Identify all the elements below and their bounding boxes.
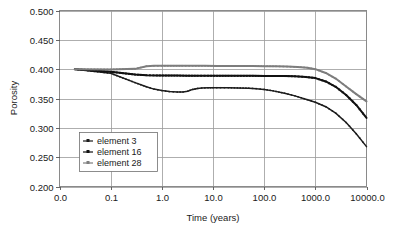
- series-marker: [243, 75, 245, 77]
- series-marker: [131, 73, 133, 75]
- series-marker: [212, 87, 214, 89]
- series-marker: [352, 101, 354, 103]
- legend-label: element 3: [97, 136, 137, 146]
- series-marker: [74, 68, 76, 70]
- series-marker: [318, 78, 320, 80]
- series-marker: [185, 75, 187, 77]
- series-marker: [122, 77, 124, 79]
- series-marker: [294, 75, 296, 77]
- series-marker: [355, 104, 357, 106]
- series-marker: [224, 87, 226, 89]
- series-marker: [237, 65, 239, 67]
- x-axis-title: Time (years): [187, 212, 240, 223]
- series-marker: [359, 96, 361, 98]
- series-marker: [165, 75, 167, 77]
- series-marker: [198, 65, 200, 67]
- series-marker: [207, 87, 209, 89]
- series-marker: [311, 100, 313, 102]
- series-marker: [165, 90, 167, 92]
- series-marker: [274, 75, 276, 77]
- chart-legend: element 3element 16element 28: [80, 133, 158, 172]
- series-marker: [349, 88, 351, 90]
- series-marker: [182, 91, 184, 93]
- series-marker: [307, 99, 309, 101]
- series-marker: [266, 89, 268, 91]
- series-marker: [270, 75, 272, 77]
- series-marker: [143, 66, 145, 68]
- y-tick-label: 0.200: [30, 182, 54, 193]
- series-marker: [249, 75, 251, 77]
- series-marker: [169, 91, 171, 93]
- series-marker: [287, 93, 289, 95]
- series-marker: [315, 68, 317, 70]
- series-marker: [263, 89, 265, 91]
- series-marker: [321, 79, 323, 81]
- series-marker: [281, 75, 283, 77]
- series-marker: [342, 119, 344, 121]
- series-marker: [197, 75, 199, 77]
- series-marker: [122, 68, 124, 70]
- series-marker: [246, 75, 248, 77]
- series-marker: [153, 65, 155, 67]
- series-marker: [248, 87, 250, 89]
- series-marker: [87, 68, 89, 70]
- series-marker: [176, 65, 178, 67]
- series-marker: [237, 75, 239, 77]
- series-marker: [328, 108, 330, 110]
- y-tick-label: 0.250: [30, 152, 54, 163]
- series-marker: [234, 87, 236, 89]
- series-marker: [349, 126, 351, 128]
- series-marker: [300, 97, 302, 99]
- series-marker: [228, 87, 230, 89]
- series-marker: [128, 73, 130, 75]
- series-marker: [161, 65, 163, 67]
- x-tick-label: 0.1: [105, 192, 118, 203]
- series-marker: [176, 75, 178, 77]
- series-marker: [311, 77, 313, 79]
- legend-items: element 3element 16element 28: [83, 136, 142, 168]
- y-tick-label: 0.500: [30, 6, 54, 17]
- series-marker: [149, 65, 151, 67]
- series-marker: [77, 68, 79, 70]
- series-marker: [325, 81, 327, 83]
- series-marker: [328, 74, 330, 76]
- series-marker: [294, 95, 296, 97]
- series-marker: [185, 65, 187, 67]
- series-marker: [103, 70, 105, 72]
- series-marker: [231, 87, 233, 89]
- series-marker: [173, 75, 175, 77]
- series-marker: [189, 90, 191, 92]
- series-marker: [267, 75, 269, 77]
- y-tick-label: 0.300: [30, 123, 54, 134]
- series-marker: [297, 96, 299, 98]
- series-marker: [167, 65, 169, 67]
- x-tick-label: 10.0: [204, 192, 223, 203]
- series-marker: [318, 70, 320, 72]
- series-marker: [258, 75, 260, 77]
- series-marker: [345, 122, 347, 124]
- series-marker: [252, 88, 254, 90]
- series-marker: [231, 65, 233, 67]
- series-marker: [338, 89, 340, 91]
- series-marker: [261, 65, 263, 67]
- series-marker: [161, 90, 163, 92]
- series-marker: [227, 75, 229, 77]
- series-marker: [335, 86, 337, 88]
- series-marker: [219, 75, 221, 77]
- series-marker: [81, 68, 83, 70]
- series-marker: [134, 82, 136, 84]
- series-marker: [110, 69, 112, 71]
- series-marker: [182, 75, 184, 77]
- series-marker: [335, 78, 337, 80]
- series-marker: [301, 76, 303, 78]
- series-marker: [362, 113, 364, 115]
- series-marker: [263, 65, 265, 67]
- series-marker: [291, 75, 293, 77]
- series-marker: [179, 75, 181, 77]
- series-marker: [291, 94, 293, 96]
- series-marker: [258, 65, 260, 67]
- series-marker: [246, 65, 248, 67]
- series-marker: [173, 91, 175, 93]
- series-marker: [342, 91, 344, 93]
- series-marker: [338, 116, 340, 118]
